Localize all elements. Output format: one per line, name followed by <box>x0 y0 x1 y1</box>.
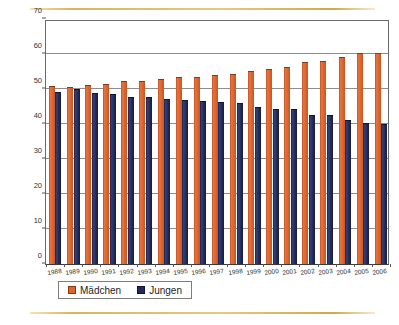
x-tick-mark-1998 <box>227 264 228 267</box>
x-tick-label-1992: 1992 <box>119 267 134 276</box>
bar-jungen-2006 <box>381 124 387 264</box>
bar-jungen-2000 <box>273 109 279 264</box>
y-tick-label-60: 60 <box>34 41 42 50</box>
x-tick-mark-2005 <box>354 264 355 267</box>
bar-group <box>155 21 173 264</box>
bar-maedchen-2001 <box>284 67 290 264</box>
bar-maedchen-1988 <box>49 86 55 264</box>
y-tick-label-20: 20 <box>34 181 42 190</box>
plot-area: 010203040506070 198819891990199119921993… <box>45 20 389 265</box>
legend-item-mdchen[interactable]: Mädchen <box>68 285 121 296</box>
y-tick-label-70: 70 <box>34 6 42 15</box>
y-tick-mark-70 <box>42 18 46 19</box>
x-tick-label-1998: 1998 <box>228 267 243 276</box>
x-tick-mark-2003 <box>318 264 319 267</box>
x-tick-label-2002: 2002 <box>300 267 315 276</box>
chart-figure: Kinder in Prozent 010203040506070 198819… <box>0 0 399 325</box>
bar-maedchen-1989 <box>67 87 73 264</box>
bar-maedchen-1994 <box>158 79 164 264</box>
x-tick-mark-1995 <box>173 264 174 267</box>
x-tick-label-1993: 1993 <box>137 267 152 276</box>
bar-maedchen-2004 <box>339 57 345 264</box>
y-tick-label-0: 0 <box>38 251 42 260</box>
bar-jungen-1988 <box>55 92 61 264</box>
bar-maedchen-1990 <box>85 85 91 264</box>
bar-jungen-2004 <box>345 120 351 264</box>
bar-jungen-1997 <box>218 102 224 264</box>
bar-group <box>173 21 191 264</box>
x-tick-label-1989: 1989 <box>65 267 80 276</box>
x-tick-label-1996: 1996 <box>191 267 206 276</box>
legend-swatch-boys-icon <box>137 286 145 294</box>
y-tick-label-30: 30 <box>34 146 42 155</box>
bar-maedchen-2003 <box>320 61 326 264</box>
bar-jungen-1992 <box>128 97 134 264</box>
x-tick-label-1995: 1995 <box>173 267 188 276</box>
bar-jungen-1996 <box>200 101 206 264</box>
top-divider-rule <box>30 8 375 10</box>
x-tick-mark-1997 <box>209 264 210 267</box>
y-tick-label-10: 10 <box>34 216 42 225</box>
x-tick-label-1991: 1991 <box>101 267 116 276</box>
bar-jungen-1999 <box>255 107 261 265</box>
x-tick-mark-2004 <box>336 264 337 267</box>
x-tick-label-1988: 1988 <box>47 267 62 276</box>
bar-maedchen-1992 <box>121 81 127 264</box>
bar-jungen-2001 <box>291 109 297 264</box>
bar-jungen-1991 <box>110 94 116 264</box>
bar-group <box>281 21 299 264</box>
x-tick-label-1990: 1990 <box>83 267 98 276</box>
legend-swatch-girls-icon <box>68 286 76 294</box>
x-tick-mark-1999 <box>245 264 246 267</box>
bar-group <box>137 21 155 264</box>
bar-series-container <box>46 21 388 264</box>
bar-maedchen-2006 <box>375 53 381 264</box>
y-tick-label-50: 50 <box>34 76 42 85</box>
bar-jungen-1993 <box>146 97 152 264</box>
legend-label: Jungen <box>149 285 182 296</box>
bar-group <box>227 21 245 264</box>
bar-group <box>46 21 64 264</box>
bar-group <box>318 21 336 264</box>
x-tick-label-2001: 2001 <box>282 267 297 276</box>
x-tick-mark-1992 <box>118 264 119 267</box>
x-tick-label-2000: 2000 <box>264 267 279 276</box>
bar-maedchen-1996 <box>194 77 200 264</box>
x-tick-mark-2002 <box>299 264 300 267</box>
x-tick-label-1997: 1997 <box>209 267 224 276</box>
bar-maedchen-2002 <box>302 62 308 264</box>
bar-jungen-1989 <box>74 89 80 264</box>
x-tick-mark-1993 <box>137 264 138 267</box>
x-tick-mark-end <box>390 264 391 267</box>
bar-group <box>263 21 281 264</box>
bar-jungen-1995 <box>182 100 188 264</box>
x-tick-mark-1996 <box>191 264 192 267</box>
bar-group <box>64 21 82 264</box>
bar-jungen-1998 <box>237 103 243 264</box>
bar-group <box>191 21 209 264</box>
bar-maedchen-1999 <box>248 71 254 264</box>
bar-group <box>82 21 100 264</box>
bar-group <box>245 21 263 264</box>
x-tick-mark-2006 <box>372 264 373 267</box>
x-tick-mark-2000 <box>263 264 264 267</box>
x-tick-mark-1988 <box>46 264 47 267</box>
x-tick-label-2006: 2006 <box>372 267 387 276</box>
bar-group <box>209 21 227 264</box>
bar-group <box>118 21 136 264</box>
legend-label: Mädchen <box>80 285 121 296</box>
bar-jungen-1990 <box>92 93 98 264</box>
bar-maedchen-1997 <box>212 75 218 264</box>
x-tick-label-2004: 2004 <box>336 267 351 276</box>
chart-legend: MädchenJungen <box>58 281 192 299</box>
y-tick-label-40: 40 <box>34 111 42 120</box>
bar-group <box>354 21 372 264</box>
bar-maedchen-2005 <box>357 53 363 264</box>
x-tick-mark-1989 <box>64 264 65 267</box>
x-tick-mark-1990 <box>82 264 83 267</box>
x-tick-mark-2001 <box>281 264 282 267</box>
legend-item-jungen[interactable]: Jungen <box>137 285 182 296</box>
bar-maedchen-2000 <box>266 69 272 264</box>
bar-maedchen-1998 <box>230 74 236 264</box>
x-tick-mark-1991 <box>100 264 101 267</box>
